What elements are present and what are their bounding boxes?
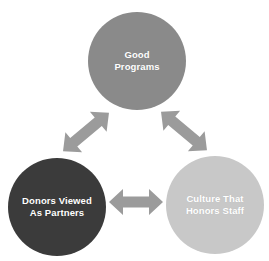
node-culture-that-honors-staff[interactable]: [166, 156, 264, 254]
diagram-canvas: [0, 0, 269, 261]
arrow-donors-to-programs: [55, 103, 118, 161]
arrow-programs-to-culture: [153, 102, 216, 160]
cycle-diagram: Good Programs Donors Viewed As Partners …: [0, 0, 269, 261]
node-good-programs[interactable]: [88, 12, 186, 110]
node-donors-viewed-as-partners[interactable]: [8, 158, 106, 256]
arrow-donors-to-culture: [109, 189, 163, 215]
